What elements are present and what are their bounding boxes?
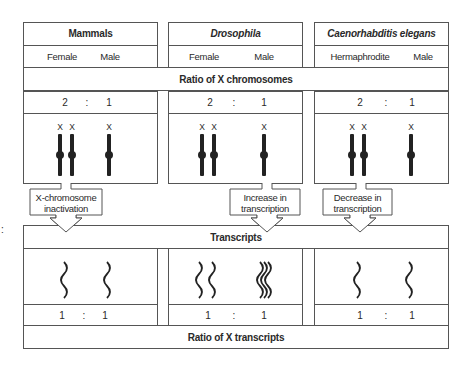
transcript-icon [61,262,67,298]
transcript-icon [209,262,215,298]
transcripts-drawing [0,0,466,368]
transcript-icon [265,262,271,298]
transcript-icon [354,262,360,298]
transcript-icon [196,262,202,298]
transcript-icon [406,262,412,298]
transcript-icon [104,262,110,298]
transcript-icon [257,262,263,298]
transcript-icon [261,262,267,298]
